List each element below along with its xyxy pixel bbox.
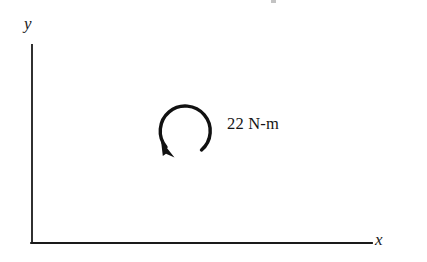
moment-arrow-group [160, 106, 210, 157]
figure-canvas: y x 22 N-m [0, 0, 427, 262]
scan-crop-artifact [271, 0, 276, 3]
moment-value-label: 22 N-m [227, 116, 279, 133]
coordinate-axes [31, 45, 372, 243]
curved-moment-arrow-icon [160, 106, 210, 150]
diagram-svg [0, 0, 427, 262]
y-axis-label: y [24, 15, 32, 32]
moment-arrowhead-icon [161, 141, 175, 158]
x-axis-label: x [375, 231, 383, 248]
